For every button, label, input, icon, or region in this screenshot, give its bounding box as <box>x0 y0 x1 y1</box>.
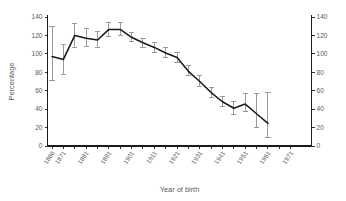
x-axis-tick-label: 1891 <box>99 149 113 165</box>
x-axis-tick-label: 1881 <box>76 149 90 165</box>
y-axis-tick-label-right: 140 <box>317 13 328 20</box>
x-axis-tick-label: 1921 <box>167 149 181 165</box>
y-axis-tick-label-right: 100 <box>317 50 328 57</box>
y-axis-tick-label-right: 120 <box>317 32 328 39</box>
y-axis-title: Percentage <box>7 63 16 101</box>
y-axis-tick-label-left: 120 <box>31 32 42 39</box>
x-axis-tick-label: 1961 <box>258 149 272 165</box>
y-axis-tick-label-right: 60 <box>317 87 325 94</box>
line-chart: 0204060801001201400204060801001201401866… <box>0 0 346 201</box>
chart-container: 0204060801001201400204060801001201401866… <box>0 0 346 201</box>
x-axis-tick-label: 1901 <box>122 149 136 165</box>
x-axis-tick-label: 1871 <box>53 149 67 165</box>
y-axis-tick-label-left: 140 <box>31 13 42 20</box>
y-axis-tick-label-left: 60 <box>35 87 43 94</box>
x-axis-tick-label: 1941 <box>212 149 226 165</box>
y-axis-tick-label-left: 80 <box>35 69 43 76</box>
y-axis-tick-label-left: 100 <box>31 50 42 57</box>
y-axis-tick-label-right: 40 <box>317 105 325 112</box>
x-axis-tick-label: 1951 <box>235 149 249 165</box>
x-axis-title: Year of birth <box>160 185 200 194</box>
data-series-line <box>52 29 268 123</box>
x-axis-tick-label: 1931 <box>190 149 204 165</box>
y-axis-tick-label-left: 20 <box>35 124 43 131</box>
x-axis-tick-label: 1971 <box>281 149 295 165</box>
y-axis-tick-label-left: 40 <box>35 105 43 112</box>
y-axis-tick-label-right: 0 <box>317 142 321 149</box>
x-axis-tick-label: 1911 <box>145 149 159 165</box>
y-axis-tick-label-right: 80 <box>317 69 325 76</box>
y-axis-tick-label-right: 20 <box>317 124 325 131</box>
y-axis-tick-label-left: 0 <box>39 142 43 149</box>
chart-render-group: 0204060801001201400204060801001201401866… <box>7 13 328 194</box>
